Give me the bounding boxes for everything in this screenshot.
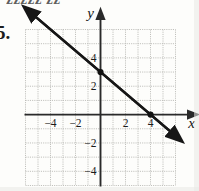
y-tick-label: −4 xyxy=(84,165,96,177)
y-tick-label: 2 xyxy=(91,80,97,92)
x-tick-label: 2 xyxy=(123,117,129,129)
x-tick-label: −2 xyxy=(69,117,81,129)
y-tick-label: 4 xyxy=(91,52,97,64)
data-point xyxy=(97,69,103,75)
y-axis-label: y xyxy=(85,5,94,21)
x-tick-label: 4 xyxy=(148,117,154,129)
figure-container: zzzzz zz 5. −4−224−4−224 xy xyxy=(0,0,199,191)
x-tick-label: −4 xyxy=(44,117,56,129)
data-point xyxy=(147,111,153,117)
y-tick-label: −2 xyxy=(84,137,96,149)
x-axis-label: x xyxy=(187,115,195,131)
coordinate-plane-graph: −4−224−4−224 xy xyxy=(0,0,199,191)
